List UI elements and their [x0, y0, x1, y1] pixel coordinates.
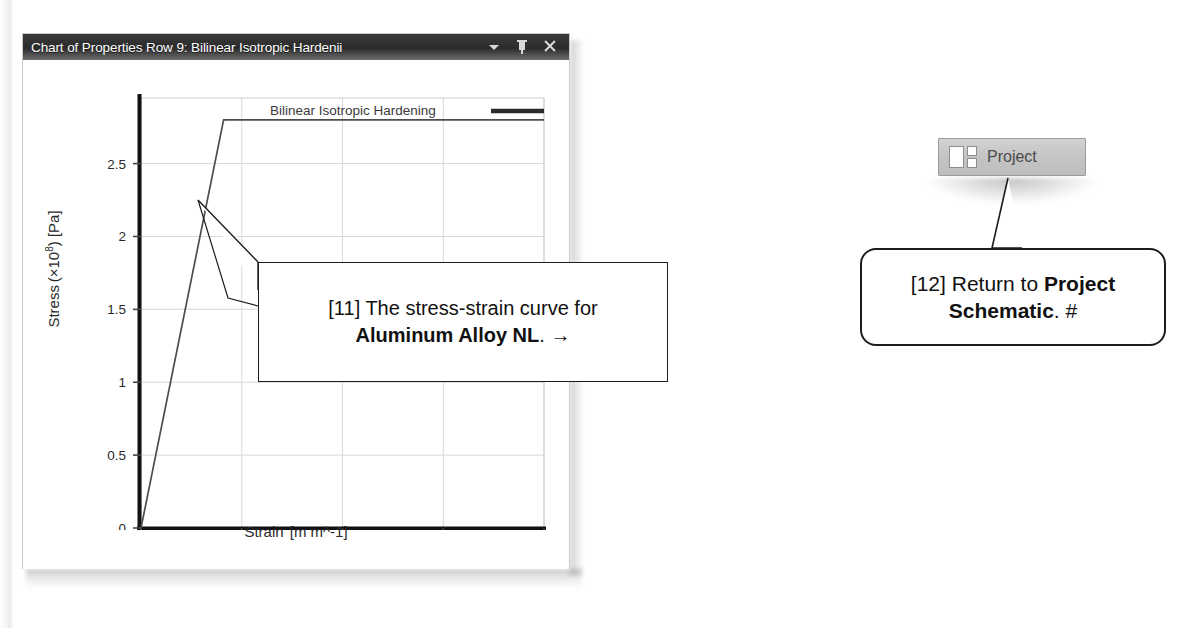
y-tick-label: 1	[118, 375, 126, 390]
y-tick-label: 2	[118, 229, 126, 244]
y-tick-label: 0.5	[107, 448, 126, 463]
callout-12-tag: [12]	[911, 272, 946, 295]
callout-12-text-before: Return to	[946, 272, 1044, 295]
callout-11-text: [11] The stress-strain curve for Aluminu…	[314, 295, 611, 349]
panel-title-bar: Chart of Properties Row 9: Bilinear Isot…	[23, 34, 569, 60]
callout-12-text: [12] Return to Project Schematic. #	[895, 270, 1131, 325]
callout-11: [11] The stress-strain curve for Aluminu…	[258, 262, 668, 382]
callout-12-bold1: Project	[1044, 272, 1115, 295]
y-tick-label: 1.5	[107, 302, 126, 317]
x-axis-label-prefix: Strain	[244, 523, 283, 540]
callout-11-bold: Aluminum Alloy NL	[356, 324, 540, 346]
callout-11-text-after: . →	[539, 324, 570, 346]
layout-panes-icon	[949, 146, 977, 168]
callout-12: [12] Return to Project Schematic. #	[860, 248, 1166, 346]
callout-11-text-before: The stress-strain curve for	[360, 297, 597, 319]
callout-12-bold2: Schematic	[949, 299, 1054, 322]
legend-label: Bilinear Isotropic Hardening	[270, 103, 436, 118]
callout-11-tag: [11]	[328, 297, 360, 319]
project-button-label: Project	[987, 148, 1037, 166]
project-button-shadow	[926, 178, 1098, 204]
project-button-wrap: Project	[938, 138, 1086, 180]
panel-title-buttons	[487, 39, 563, 55]
panel-drop-shadow	[26, 569, 582, 589]
project-button[interactable]: Project	[938, 138, 1086, 176]
panel-title: Chart of Properties Row 9: Bilinear Isot…	[31, 40, 487, 55]
x-axis-label: Strain [m m^-1]	[23, 523, 569, 540]
pin-icon[interactable]	[515, 39, 529, 55]
chevron-down-icon[interactable]	[487, 39, 501, 55]
close-icon[interactable]	[543, 39, 557, 55]
page-scan-edge	[0, 0, 14, 628]
x-axis-label-unit: [m m^-1]	[290, 523, 348, 540]
callout-12-text-after: . #	[1054, 299, 1077, 322]
y-tick-label: 2.5	[107, 157, 126, 172]
